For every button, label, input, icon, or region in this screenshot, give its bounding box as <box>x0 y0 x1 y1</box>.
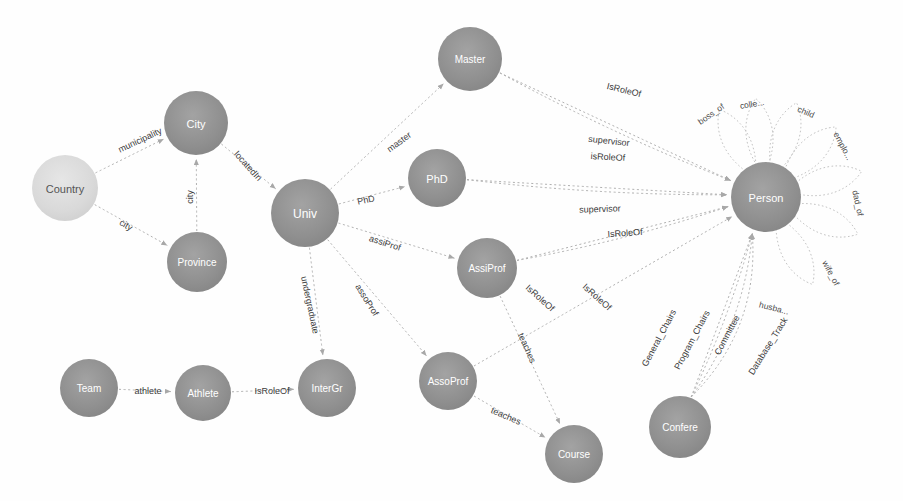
edge-label-e24: Database_Track <box>746 315 790 376</box>
graph-diagram: boss_ofcolle...childemplo...dad_ofwife_o… <box>0 0 903 501</box>
node-circle[interactable] <box>457 238 517 298</box>
graph-node-intergr[interactable]: InterGr <box>298 359 356 417</box>
graph-node-person[interactable]: Person <box>731 162 801 232</box>
node-circle[interactable] <box>419 352 477 410</box>
node-circle[interactable] <box>298 359 356 417</box>
edge-label-e15: IsRoleOf <box>524 283 557 314</box>
graph-canvas: boss_ofcolle...childemplo...dad_ofwife_o… <box>0 0 903 501</box>
edge-label-e19: athlete <box>134 386 161 396</box>
graph-node-province[interactable]: Province <box>167 232 227 292</box>
edge-label-e11: supervisor <box>588 134 630 148</box>
edge-label-e20: IsRoleOf <box>254 386 290 396</box>
self-loop-label: boss_of <box>696 101 727 127</box>
graph-node-city[interactable]: City <box>164 91 228 155</box>
graph-node-assiprof[interactable]: AssiProf <box>457 238 517 298</box>
graph-node-master[interactable]: Master <box>438 27 502 91</box>
graph-nodes-layer: CountryCityProvinceUnivMasterPhDAssiProf… <box>32 27 801 483</box>
edge-label-e22: Program_Chairs <box>672 308 712 371</box>
edge-label-e23: Committee <box>712 313 741 356</box>
self-loop-label: child <box>796 104 816 120</box>
self-loop-label: wife_of <box>820 258 842 288</box>
edge-label-e10: IsRoleOf <box>606 81 643 99</box>
node-circle[interactable] <box>545 425 603 483</box>
edge-label-e13: supervisor <box>579 203 621 214</box>
graph-node-athlete[interactable]: Athlete <box>175 365 231 421</box>
node-circle[interactable] <box>408 149 466 207</box>
graph-node-assoprof[interactable]: AssoProf <box>419 352 477 410</box>
edge-label-e4: locatedIn <box>232 149 264 183</box>
edge-univ-to-assoprof <box>328 240 427 356</box>
node-circle[interactable] <box>164 91 228 155</box>
graph-node-confere[interactable]: Confere <box>649 396 711 458</box>
node-circle[interactable] <box>731 162 801 232</box>
graph-node-course[interactable]: Course <box>545 425 603 483</box>
edge-label-e1: municipality <box>117 125 164 154</box>
graph-node-phd[interactable]: PhD <box>408 149 466 207</box>
node-circle[interactable] <box>175 365 231 421</box>
edge-label-e3: city <box>185 190 195 204</box>
node-circle[interactable] <box>271 179 339 247</box>
graph-node-univ[interactable]: Univ <box>271 179 339 247</box>
self-loop-label: husba... <box>758 299 790 316</box>
node-circle[interactable] <box>438 27 502 91</box>
edge-label-e9: assoProf <box>353 282 381 318</box>
edge-label-e17: teaches <box>516 332 538 365</box>
node-circle[interactable] <box>32 155 98 221</box>
self-loop-label: emplo... <box>831 130 854 161</box>
self-loop-label: colle... <box>739 97 765 111</box>
edge-label-e12: isRoleOf <box>591 151 626 163</box>
edge-label-e5: master <box>385 130 413 154</box>
node-circle[interactable] <box>60 359 118 417</box>
graph-node-team[interactable]: Team <box>60 359 118 417</box>
self-loop-label: dad_of <box>850 189 865 217</box>
node-circle[interactable] <box>167 232 227 292</box>
edge-label-e14: IsRoleOf <box>607 227 643 239</box>
node-circle[interactable] <box>649 396 711 458</box>
edge-label-e21: General_Chairs <box>640 307 679 368</box>
edge-label-e6: PhD <box>356 193 376 207</box>
edge-label-e2: city <box>118 217 135 233</box>
edge-phd-to-person <box>467 180 727 195</box>
edge-label-e16: IsRoleOf <box>581 282 614 313</box>
edge-province-to-city <box>196 159 197 231</box>
edge-label-e7: assiProf <box>368 233 402 253</box>
graph-node-country[interactable]: Country <box>32 155 98 221</box>
edge-label-e18: teaches <box>490 405 523 427</box>
edge-label-e8: undergraduate <box>299 275 321 334</box>
